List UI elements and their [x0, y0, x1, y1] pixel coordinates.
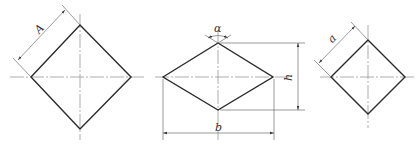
rhombus-view: α h b [155, 22, 305, 140]
width-label: b [215, 121, 222, 134]
right-dimension-label: a [325, 32, 339, 46]
height-label: h [282, 74, 295, 81]
left-extension-line-lower [13, 58, 31, 77]
left-dimension-label: A [31, 22, 47, 37]
left-square-view: A [10, 5, 146, 140]
right-extension-line-lower [314, 60, 331, 77]
angle-label: α [214, 22, 222, 35]
technical-drawing: A α h b a [0, 0, 420, 151]
right-square-view: a [314, 22, 416, 128]
left-extension-line-upper [62, 5, 80, 25]
right-extension-line-upper [351, 22, 368, 40]
